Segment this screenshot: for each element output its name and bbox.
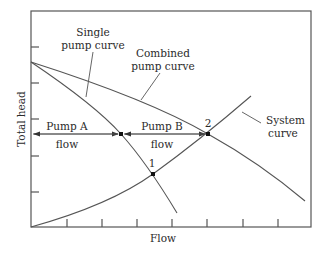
- point-2-label: 2: [205, 117, 212, 129]
- system-curve-label-1: System: [266, 114, 305, 126]
- pump-b-label: Pump B: [141, 120, 183, 132]
- system-curve-leader: [242, 112, 261, 123]
- combined-pump-label-1: Combined: [136, 47, 190, 59]
- x-axis-label: Flow: [150, 232, 176, 244]
- operating-point-2: [206, 132, 210, 136]
- operating-point-1: [151, 172, 155, 176]
- pump-a-label: Pump A: [46, 120, 88, 132]
- combined-pump-leader: [141, 73, 160, 100]
- pump-b-flow-label: flow: [151, 138, 173, 150]
- single-pump-label-1: Single: [76, 26, 110, 38]
- pump-a-intersection-point: [119, 132, 123, 136]
- y-axis-label: Total head: [15, 91, 27, 147]
- combined-pump-label-2: pump curve: [131, 60, 194, 72]
- system-curve: [31, 96, 251, 227]
- pump-curve-diagram: Single pump curve Combined pump curve Sy…: [0, 0, 324, 254]
- single-pump-leader: [86, 52, 93, 97]
- single-pump-label-2: pump curve: [61, 39, 124, 51]
- system-curve-label-2: curve: [268, 127, 298, 139]
- x-ticks: [67, 219, 278, 227]
- point-1-label: 1: [149, 157, 156, 169]
- y-ticks: [31, 47, 39, 192]
- pump-a-flow-label: flow: [56, 138, 78, 150]
